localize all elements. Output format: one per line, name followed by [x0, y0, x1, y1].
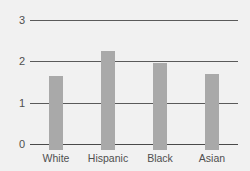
bars-layer — [30, 14, 238, 150]
x-label-slot-asian: Asian — [186, 148, 238, 166]
y-axis-tick-label-1: 1 — [19, 97, 25, 108]
bar-slot-white — [30, 14, 82, 150]
bar-hispanic — [101, 51, 115, 150]
y-axis-tick-label-3: 3 — [19, 15, 25, 26]
x-label-slot-white: White — [30, 148, 82, 166]
bar-slot-hispanic — [82, 14, 134, 150]
bar-white — [49, 76, 63, 150]
x-axis-labels: White Hispanic Black Asian — [30, 148, 238, 166]
x-label-slot-hispanic: Hispanic — [82, 148, 134, 166]
bar-slot-black — [134, 14, 186, 150]
x-label-slot-black: Black — [134, 148, 186, 166]
bar-asian — [205, 74, 219, 150]
x-axis-tick-label-black: Black — [147, 152, 173, 164]
x-axis-tick-label-white: White — [43, 152, 70, 164]
x-axis-tick-label-asian: Asian — [199, 152, 225, 164]
bar-chart: 3 2 1 0 White Hispa — [0, 0, 250, 171]
x-axis-tick-label-hispanic: Hispanic — [88, 152, 128, 164]
y-axis-tick-label-0: 0 — [19, 139, 25, 150]
y-axis-tick-label-2: 2 — [19, 56, 25, 67]
bar-black — [153, 63, 167, 150]
bar-slot-asian — [186, 14, 238, 150]
